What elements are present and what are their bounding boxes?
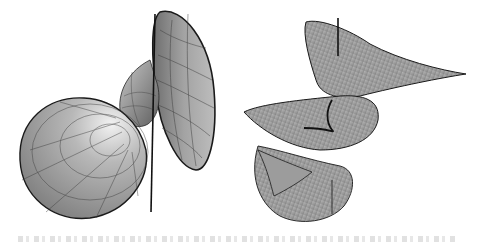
surface-panel-left <box>0 0 240 228</box>
surface-panel-right <box>240 0 480 228</box>
figure <box>0 0 480 228</box>
helicoid-surface <box>240 0 480 228</box>
twisted-funnel-surface <box>0 0 240 228</box>
figure-caption-clipped <box>0 232 480 242</box>
caption-ghost-text <box>18 236 458 242</box>
